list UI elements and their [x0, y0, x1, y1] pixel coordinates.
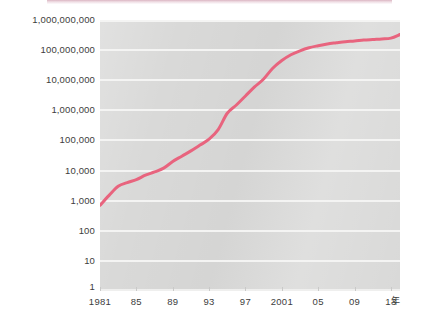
- x-axis-tick-label: 89: [167, 296, 178, 307]
- x-axis-tick-label: 2001: [271, 296, 293, 307]
- y-axis-tick-label: 1,000,000: [0, 105, 95, 115]
- y-axis-tick-label: 10,000: [0, 166, 95, 176]
- line-chart-figure: 1,000,000,000100,000,00010,000,0001,000,…: [0, 0, 422, 329]
- y-axis-tick-label: 100,000: [0, 135, 95, 145]
- y-axis-tick-label: 100,000,000: [0, 45, 95, 55]
- y-axis-tick-label: 1,000,000,000: [0, 15, 95, 25]
- x-axis-tick-label: 93: [203, 296, 214, 307]
- x-axis-tick-label: 85: [131, 296, 142, 307]
- x-axis-tick-label: 05: [313, 296, 324, 307]
- plot-area: [100, 20, 400, 291]
- series-line-group: [100, 20, 400, 291]
- y-axis-tick-label: 1: [0, 282, 95, 292]
- x-axis-tick-label: 1981: [89, 296, 111, 307]
- y-axis-tick-label: 100: [0, 226, 95, 236]
- y-axis-tick-label: 10: [0, 256, 95, 266]
- y-axis-tick-label: 10,000,000: [0, 75, 95, 85]
- x-axis-tick-label: 09: [349, 296, 360, 307]
- y-axis-tick-label: 1,000: [0, 196, 95, 206]
- x-axis-tick-label: 97: [240, 296, 251, 307]
- series-line-cumulative: [100, 35, 400, 206]
- x-axis-unit-label: 年: [391, 296, 400, 307]
